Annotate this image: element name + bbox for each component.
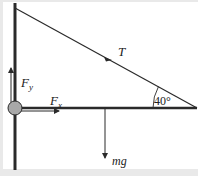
fy-label-sub: y	[29, 82, 33, 92]
free-body-diagram: T 40° Fy Fx mg	[0, 0, 198, 176]
fx-label-sub: x	[58, 100, 62, 110]
fx-label-main: F	[50, 93, 58, 108]
fy-label: Fy	[21, 76, 33, 92]
angle-label: 40°	[154, 95, 171, 107]
fy-label-main: F	[21, 75, 29, 90]
tension-label: T	[118, 45, 125, 58]
pivot-icon	[8, 101, 22, 115]
fx-label: Fx	[50, 94, 62, 110]
weight-label: mg	[112, 155, 127, 167]
